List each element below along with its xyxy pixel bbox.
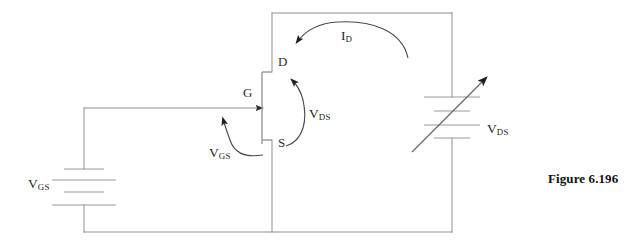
gate-terminal-label: G [243,86,252,99]
drain-terminal-label: D [278,55,287,68]
battery-vgs [52,169,116,205]
drain-source-voltage-subscript: DS [319,112,331,122]
gate-supply-label: VGS [28,177,50,191]
supply-voltage-subscript: DS [497,127,509,137]
drain-current-arrow [297,22,408,58]
supply-voltage-symbol: V [487,121,497,136]
figure-screenshot: D G S ID VDS VGS VGS VDS Figure 6.196 [0,0,634,242]
gate-source-voltage-symbol: V [209,145,219,160]
gate-source-voltage-label: VGS [209,146,231,160]
supply-voltage-label: VDS [487,122,509,136]
gate-supply-subscript: GS [38,182,50,192]
drain-current-subscript: D [346,34,353,44]
drain-source-voltage-arrow [286,80,305,146]
circuit-wires [84,13,452,232]
drain-source-voltage-label: VDS [309,107,331,121]
drain-current-label: ID [341,29,352,43]
figure-caption: Figure 6.196 [548,172,618,185]
source-terminal-label: S [278,136,285,149]
variable-arrow [412,78,486,152]
circuit-schematic-svg [0,0,634,242]
drain-current-symbol: I [341,28,346,43]
gate-source-voltage-subscript: GS [219,151,231,161]
drain-source-voltage-symbol: V [309,106,319,121]
gate-supply-symbol: V [28,176,38,191]
